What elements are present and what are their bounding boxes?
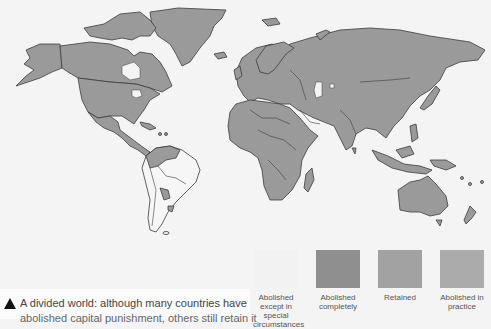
australia [398, 176, 448, 216]
philippines [410, 124, 418, 142]
caption-text-line1: A divided world: although many countries… [20, 297, 247, 309]
tasmania [436, 220, 442, 226]
legend-item-retained: Retained [377, 250, 423, 302]
caribbean [140, 122, 156, 130]
legend-item-abolished-except: Abolished except in special circumstance… [253, 250, 299, 329]
aral-sea [330, 84, 334, 88]
swatch-abolished-except [254, 250, 298, 288]
legend-label: Abolished in practice [439, 293, 485, 311]
swatch-abolished-in-practice [440, 250, 484, 288]
legend-item-abolished-completely: Abolished completely [315, 250, 361, 311]
legend-label: Abolished completely [315, 293, 361, 311]
legend-label: Retained [377, 293, 423, 302]
new-zealand [464, 206, 476, 224]
swatch-abolished-completely [316, 250, 360, 288]
caption-text-line2: abolished capital punishment, others sti… [20, 312, 257, 324]
greenland [150, 8, 226, 66]
borneo [396, 146, 414, 158]
mexico-central-america [88, 112, 150, 156]
svalbard [262, 18, 280, 26]
legend-label: Abolished except in special circumstance… [253, 293, 299, 329]
caspian-sea [314, 82, 322, 98]
sri-lanka [352, 148, 356, 154]
madagascar [304, 168, 314, 192]
new-guinea [430, 160, 456, 170]
world-map [0, 0, 491, 250]
alaska [16, 44, 62, 86]
legend-item-abolished-in-practice: Abolished in practice [439, 250, 485, 311]
arctic-islands [84, 12, 156, 40]
triangle-icon [4, 298, 16, 309]
swatch-retained [378, 250, 422, 288]
iceland [214, 52, 227, 59]
legend: Abolished except in special circumstance… [253, 250, 491, 319]
caption: A divided world: although many countries… [0, 289, 250, 319]
